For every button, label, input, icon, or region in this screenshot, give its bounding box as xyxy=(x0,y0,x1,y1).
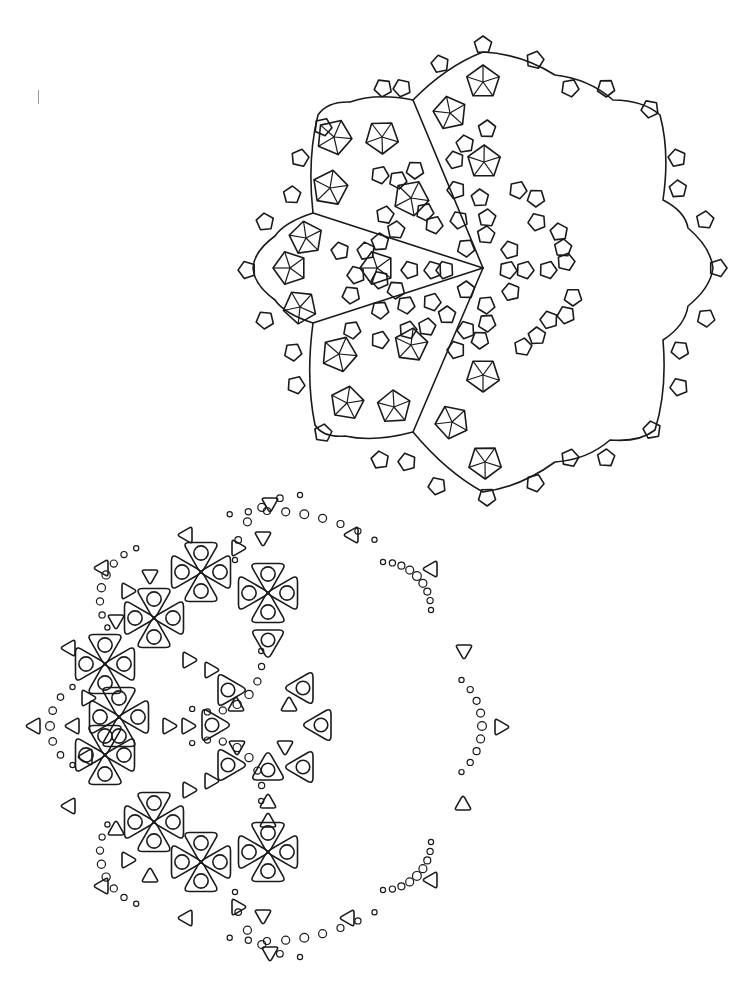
dot xyxy=(372,537,377,542)
pentagon-spoke xyxy=(443,113,450,129)
pentagon-spoke xyxy=(292,292,301,307)
small-triangle xyxy=(178,527,192,542)
rounded-triangle xyxy=(125,602,154,634)
pentagon-spoke xyxy=(330,170,333,188)
dot xyxy=(297,492,302,497)
small-pentagon xyxy=(598,449,615,466)
small-pentagon xyxy=(697,211,714,228)
small-pentagon xyxy=(550,223,567,240)
spoked-pentagon xyxy=(378,390,410,421)
rounded-triangle xyxy=(103,688,135,717)
small-triangle xyxy=(281,697,296,711)
pentagon-spoke xyxy=(372,124,382,138)
dot xyxy=(190,706,195,711)
pentagon-spoke xyxy=(339,354,343,372)
dot xyxy=(473,697,480,704)
pentagon-spoke xyxy=(411,342,428,345)
pentagon-spoke xyxy=(394,407,405,420)
eye-circle xyxy=(147,592,161,606)
dot xyxy=(102,873,110,881)
dot xyxy=(97,584,105,592)
eye-triangle xyxy=(252,564,284,593)
rounded-triangle xyxy=(218,750,245,780)
pentagon-spoke xyxy=(289,235,306,238)
eye-triangle xyxy=(138,793,170,822)
dot xyxy=(277,951,284,958)
small-triangle xyxy=(277,741,292,755)
small-triangle xyxy=(423,872,437,887)
dot xyxy=(477,709,485,717)
small-pentagon xyxy=(474,36,491,52)
small-triangle xyxy=(262,947,277,961)
small-triangle xyxy=(142,868,157,882)
small-pentagon xyxy=(428,478,445,495)
eye-triangle xyxy=(120,701,149,733)
eye-triangle xyxy=(89,635,121,664)
dot xyxy=(467,759,473,765)
pentagon-spoke xyxy=(469,462,485,467)
dot xyxy=(110,885,117,892)
eye-circle xyxy=(166,611,180,625)
clover-cluster-group xyxy=(76,543,298,892)
small-triangle xyxy=(255,910,270,924)
rounded-triangle xyxy=(253,753,283,780)
dot xyxy=(355,918,361,924)
pentagon-spoke xyxy=(468,157,484,162)
eye-triangle xyxy=(185,573,217,602)
eye-triangle xyxy=(239,577,268,609)
spoked-pentagon xyxy=(469,448,501,479)
dot xyxy=(427,598,433,604)
dot xyxy=(96,598,103,605)
small-triangle xyxy=(232,899,246,914)
eye-circle xyxy=(175,855,189,869)
small-pentagon xyxy=(401,262,417,279)
small-pentagon xyxy=(439,306,456,322)
small-pentagon xyxy=(431,55,448,72)
small-pentagon xyxy=(527,51,544,68)
pentagon-spoke xyxy=(285,252,290,268)
dot xyxy=(99,834,105,840)
pentagon-spoke xyxy=(382,123,392,137)
small-pentagon xyxy=(669,180,686,197)
eye-triangle xyxy=(253,630,283,657)
pentagon-spoke xyxy=(306,230,321,238)
pentagon-spoke xyxy=(298,307,300,324)
dot xyxy=(227,935,232,940)
spoked-pentagon xyxy=(324,337,357,371)
eye-triangle xyxy=(89,665,121,694)
pentagon-spoke xyxy=(450,105,465,114)
small-pentagon xyxy=(671,342,688,359)
small-pentagon xyxy=(458,281,475,297)
dot xyxy=(243,518,251,526)
pentagon-spoke xyxy=(382,137,383,154)
coloring-page-canvas xyxy=(0,0,734,1002)
pentagon-spoke xyxy=(396,338,411,345)
dot xyxy=(459,770,464,775)
eye-triangle xyxy=(125,806,154,838)
pentagon-spoke xyxy=(317,188,330,201)
small-pentagon xyxy=(478,297,495,314)
pentagon-spoke xyxy=(285,268,290,284)
eye-circle xyxy=(261,567,275,581)
pentagon-spoke xyxy=(334,137,352,139)
pentagon-spoke xyxy=(339,337,346,354)
eye-circle xyxy=(117,657,131,671)
eye-circle xyxy=(147,630,161,644)
small-triangle xyxy=(163,718,177,733)
small-pentagon xyxy=(528,214,545,231)
pentagon-spoke xyxy=(334,137,338,155)
rounded-triangle xyxy=(185,863,217,892)
eye-circle xyxy=(194,836,208,850)
pentagon-spoke xyxy=(483,361,493,375)
eye-circle xyxy=(296,760,310,774)
small-pentagon xyxy=(670,379,687,396)
eye-triangle xyxy=(185,543,217,572)
rounded-triangle xyxy=(252,564,284,593)
dot xyxy=(70,684,75,689)
dot xyxy=(57,694,63,700)
small-pentagon xyxy=(426,217,443,234)
eye-triangle xyxy=(125,602,154,634)
spoked-pentagon xyxy=(314,170,348,204)
clover-cluster xyxy=(172,833,231,892)
pentagon-spoke xyxy=(382,137,398,142)
